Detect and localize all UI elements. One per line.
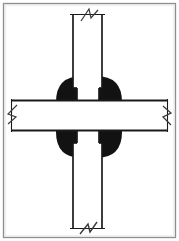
column-interior-upper (73, 14, 102, 88)
column-notch-lower (77, 131, 99, 144)
figure-container: Beam-to-column moment connection detail (0, 0, 179, 241)
column-notch-upper (77, 86, 99, 101)
connection-detail-drawing (0, 0, 179, 241)
beam-interior (12, 101, 167, 130)
column-interior-lower (73, 143, 102, 229)
horizontal-beam (11, 101, 168, 131)
